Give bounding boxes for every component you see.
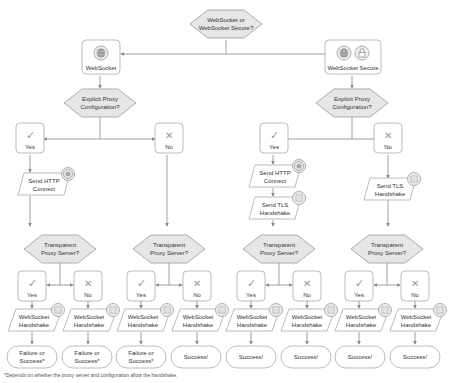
- outcome-node: Success!: [281, 346, 331, 368]
- svg-text:Configuration?: Configuration?: [332, 104, 372, 110]
- svg-text:Success!: Success!: [184, 354, 209, 360]
- svg-text:No: No: [193, 292, 201, 298]
- svg-text:Send TLS: Send TLS: [262, 202, 289, 208]
- svg-text:WebSocket: WebSocket: [19, 314, 50, 320]
- transparent-proxy-decision: Transparent Proxy Server?: [351, 235, 423, 263]
- websocket-node: WebSocket: [82, 40, 120, 74]
- yes-node: ✓Yes: [345, 271, 373, 301]
- outcome-node: Success!: [226, 346, 276, 368]
- svg-text:No: No: [303, 292, 311, 298]
- outcome-node: Failure orSuccess*: [7, 346, 57, 368]
- svg-text:Connect: Connect: [33, 186, 56, 192]
- svg-text:Transparent: Transparent: [153, 242, 185, 248]
- svg-text:Explicit Proxy: Explicit Proxy: [334, 96, 370, 102]
- x-icon: ✕: [165, 130, 173, 141]
- websocket-handshake: WebSocketHandshake: [226, 304, 283, 332]
- svg-text:WebSocket: WebSocket: [86, 65, 117, 71]
- svg-text:No: No: [84, 292, 92, 298]
- svg-text:Handshake: Handshake: [346, 322, 377, 328]
- svg-text:Configuration?: Configuration?: [80, 104, 120, 110]
- document-icon: [408, 173, 421, 186]
- websocket-handshake-row: WebSocketHandshake WebSocketHandshake We…: [8, 304, 447, 332]
- yes-node: ✓Yes: [18, 271, 46, 301]
- svg-text:Send HTTP: Send HTTP: [28, 178, 59, 184]
- svg-text:Send TLS: Send TLS: [377, 183, 404, 189]
- yes-node: ✓Yes: [237, 271, 265, 301]
- x-icon: ✕: [84, 278, 92, 289]
- send-http-connect-ws: Send HTTP Connect: [18, 168, 75, 196]
- flowchart: WebSocket or WebSocket Secure? WebSocket…: [0, 0, 453, 383]
- svg-text:WebSocket: WebSocket: [183, 314, 214, 320]
- svg-text:WebSocket: WebSocket: [346, 314, 377, 320]
- yes-no-row: ✓Yes ✕No ✓Yes ✕No ✓Yes ✕No ✓Yes ✕No: [18, 271, 429, 301]
- yes-node: ✓Yes: [127, 271, 155, 301]
- svg-text:Failure or: Failure or: [19, 350, 44, 356]
- svg-text:Handshake: Handshake: [260, 210, 291, 216]
- x-icon: ✕: [193, 278, 201, 289]
- check-icon: ✓: [270, 129, 279, 141]
- root-decision: WebSocket or WebSocket Secure?: [190, 10, 262, 38]
- svg-text:Handshake: Handshake: [401, 322, 432, 328]
- svg-text:Transparent: Transparent: [371, 242, 403, 248]
- svg-text:Success*: Success*: [19, 358, 45, 364]
- document-icon: [161, 304, 174, 317]
- send-tls-handshake: Send TLS Handshake: [364, 173, 421, 201]
- document-icon: [107, 304, 120, 317]
- svg-text:Handshake: Handshake: [375, 191, 406, 197]
- websocket-handshake: WebSocketHandshake: [63, 304, 120, 332]
- svg-text:Handshake: Handshake: [19, 322, 50, 328]
- svg-text:Success!: Success!: [294, 354, 319, 360]
- globe-icon: [94, 46, 108, 60]
- svg-text:WebSocket: WebSocket: [74, 314, 105, 320]
- outcome-node: Success!: [171, 346, 221, 368]
- document-icon: [379, 304, 392, 317]
- outcome-node: Failure orSuccess*: [62, 346, 112, 368]
- no-node: ✕ No: [155, 123, 183, 153]
- svg-text:Handshake: Handshake: [128, 322, 159, 328]
- document-icon: [434, 304, 447, 317]
- x-icon: ✕: [384, 130, 392, 141]
- target-icon: [293, 160, 306, 173]
- x-icon: ✕: [411, 278, 419, 289]
- svg-text:Handshake: Handshake: [183, 322, 214, 328]
- svg-text:Yes: Yes: [354, 292, 364, 298]
- svg-text:Handshake: Handshake: [292, 322, 323, 328]
- svg-text:Send HTTP: Send HTTP: [259, 170, 290, 176]
- document-icon: [293, 192, 306, 205]
- check-icon: ✓: [247, 277, 256, 289]
- svg-text:No: No: [165, 144, 173, 150]
- svg-text:Explicit Proxy: Explicit Proxy: [82, 96, 118, 102]
- svg-text:Yes: Yes: [25, 144, 35, 150]
- target-icon: [62, 168, 75, 181]
- no-node: ✕ No: [374, 123, 402, 153]
- svg-text:Yes: Yes: [246, 292, 256, 298]
- svg-text:WebSocket: WebSocket: [237, 314, 268, 320]
- footnote: *Depends on whether the proxy server and…: [4, 372, 177, 378]
- svg-text:Handshake: Handshake: [74, 322, 105, 328]
- no-node: ✕No: [74, 271, 102, 301]
- websocket-handshake: WebSocketHandshake: [390, 304, 447, 332]
- document-icon: [52, 304, 65, 317]
- no-node: ✕No: [401, 271, 429, 301]
- svg-text:Failure or: Failure or: [128, 350, 153, 356]
- check-icon: ✓: [28, 277, 37, 289]
- svg-text:Proxy Server?: Proxy Server?: [41, 250, 80, 256]
- no-node: ✕No: [293, 271, 321, 301]
- websocket-handshake: WebSocketHandshake: [117, 304, 174, 332]
- svg-text:Success*: Success*: [128, 358, 154, 364]
- svg-text:No: No: [411, 292, 419, 298]
- transparent-proxy-decision: Transparent Proxy Server?: [243, 235, 315, 263]
- websocket-handshake: WebSocketHandshake: [281, 304, 338, 332]
- outcome-node: Success!: [390, 346, 440, 368]
- document-icon: [325, 304, 338, 317]
- transparent-proxy-decision: Transparent Proxy Server?: [133, 235, 205, 263]
- svg-text:Yes: Yes: [27, 292, 37, 298]
- svg-text:Yes: Yes: [136, 292, 146, 298]
- svg-text:WebSocket or: WebSocket or: [207, 17, 245, 23]
- send-tls-handshake: Send TLS Handshake: [249, 192, 306, 220]
- outcome-node: Failure orSuccess*: [116, 346, 166, 368]
- websocket-handshake: WebSocketHandshake: [8, 304, 65, 332]
- svg-text:Success!: Success!: [348, 354, 373, 360]
- svg-text:Yes: Yes: [269, 144, 279, 150]
- yes-node: ✓ Yes: [260, 123, 288, 153]
